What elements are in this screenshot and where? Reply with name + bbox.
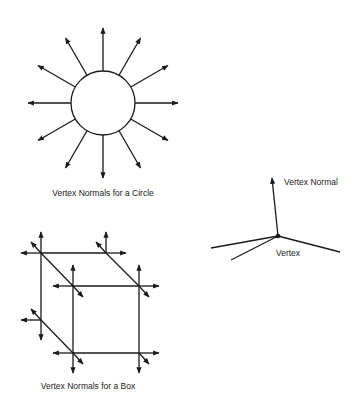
circle-figure: Vertex Normals for a Circle [28, 28, 178, 198]
normal-arrow [131, 119, 168, 141]
vertex-normal-arrow [272, 178, 278, 236]
circle-normal-arrows [28, 28, 178, 178]
normal-arrow [38, 119, 75, 141]
vertex-normal-label: Vertex Normal [284, 177, 338, 187]
normal-arrow [38, 66, 75, 88]
normal-arrow [131, 66, 168, 88]
vertex-figure: Vertex Normal Vertex [211, 177, 340, 260]
vertex-label: Vertex [276, 248, 301, 258]
edge-line [211, 236, 278, 248]
normal-arrow [66, 131, 88, 168]
normal-arrow [119, 38, 141, 75]
box-caption: Vertex Normals for a Box [41, 381, 136, 391]
vertex-normals-diagram: Vertex Normals for a Circle [0, 0, 358, 407]
normal-arrow [66, 38, 88, 75]
circle-shape [71, 71, 135, 135]
circle-caption: Vertex Normals for a Circle [52, 188, 154, 198]
normal-arrow [119, 131, 141, 168]
box-figure: Vertex Normals for a Box [21, 232, 159, 391]
vertex-point [276, 234, 281, 239]
box-edges [41, 253, 139, 353]
